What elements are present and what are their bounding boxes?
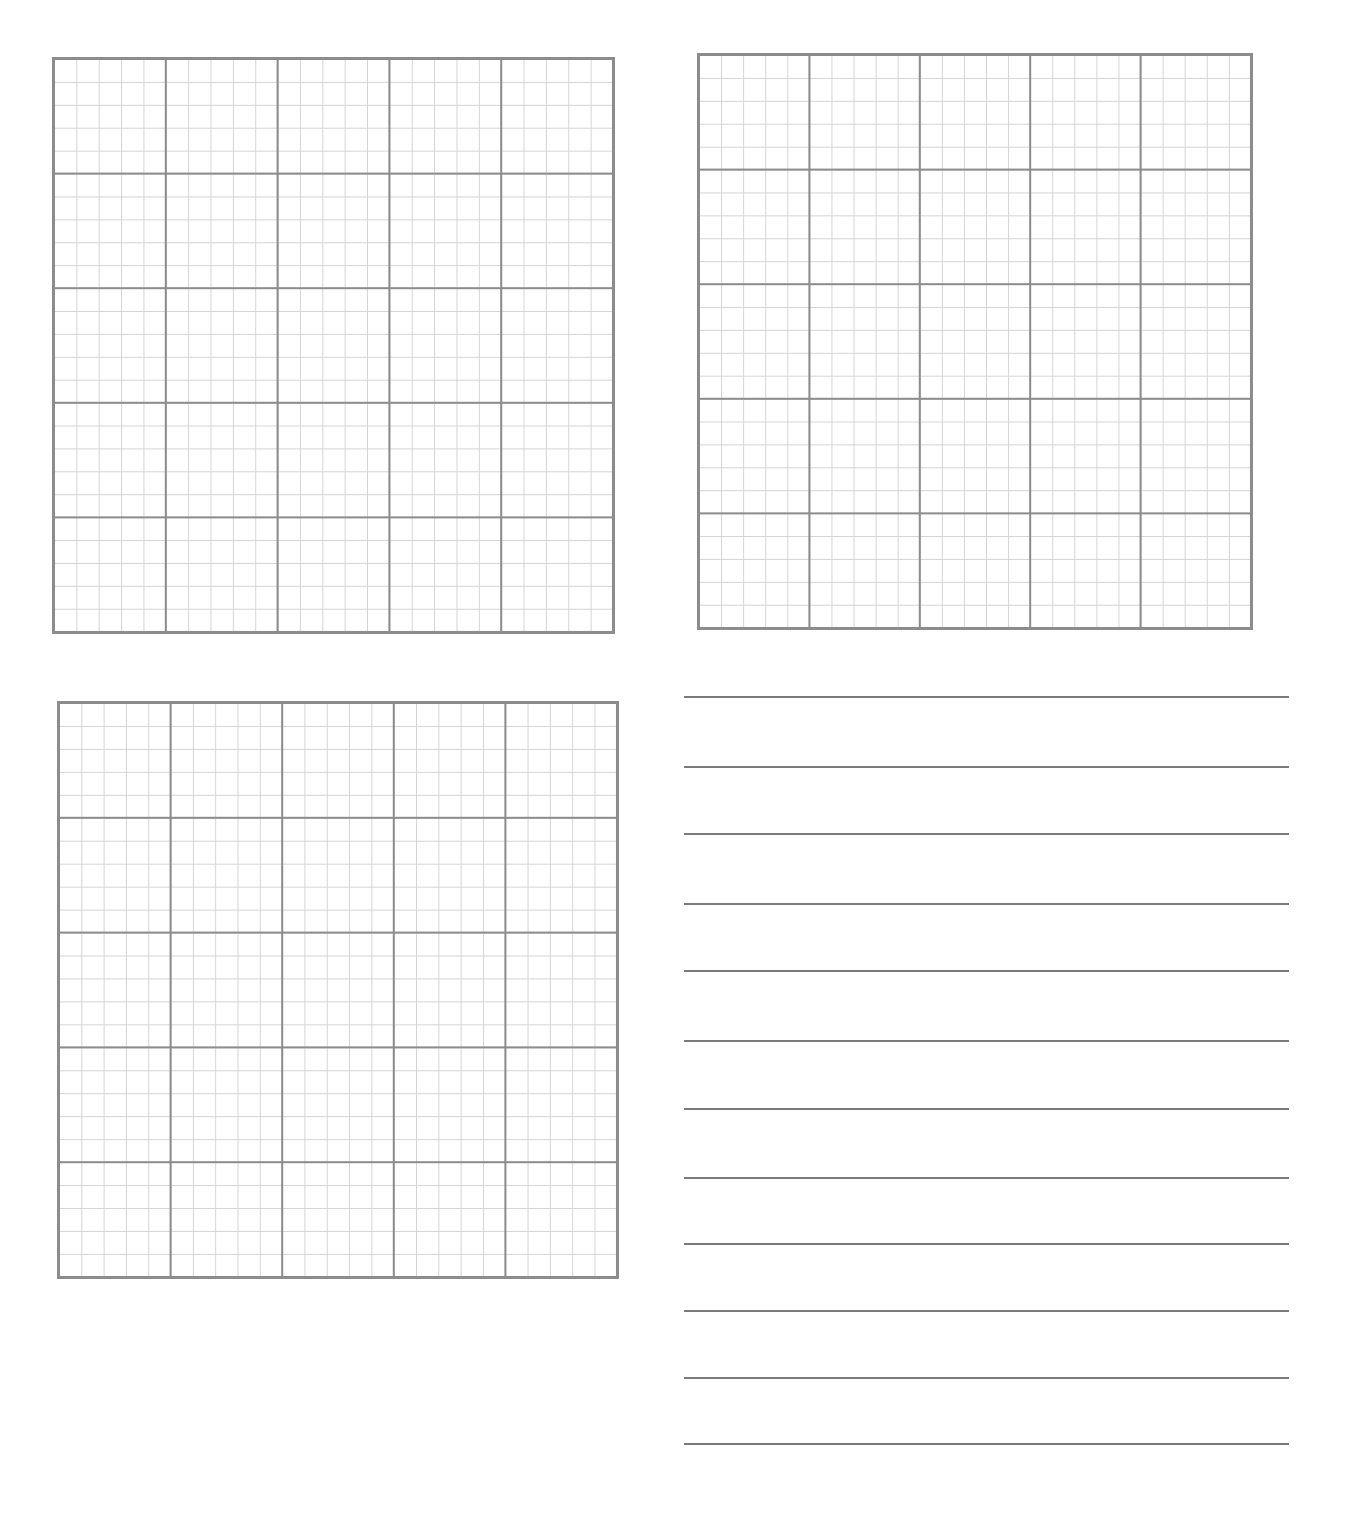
ruled-line	[684, 903, 1289, 905]
grid-bottom-left	[57, 701, 619, 1279]
ruled-line	[684, 696, 1289, 698]
ruled-line	[684, 833, 1289, 835]
ruled-line	[684, 1108, 1289, 1110]
ruled-line	[684, 1443, 1289, 1445]
ruled-line	[684, 1310, 1289, 1312]
ruled-line	[684, 1377, 1289, 1379]
ruled-line	[684, 766, 1289, 768]
ruled-line	[684, 1177, 1289, 1179]
grid-top-left	[52, 57, 615, 634]
ruled-line	[684, 970, 1289, 972]
ruled-line	[684, 1243, 1289, 1245]
ruled-line	[684, 1040, 1289, 1042]
grid-top-right	[697, 53, 1253, 630]
